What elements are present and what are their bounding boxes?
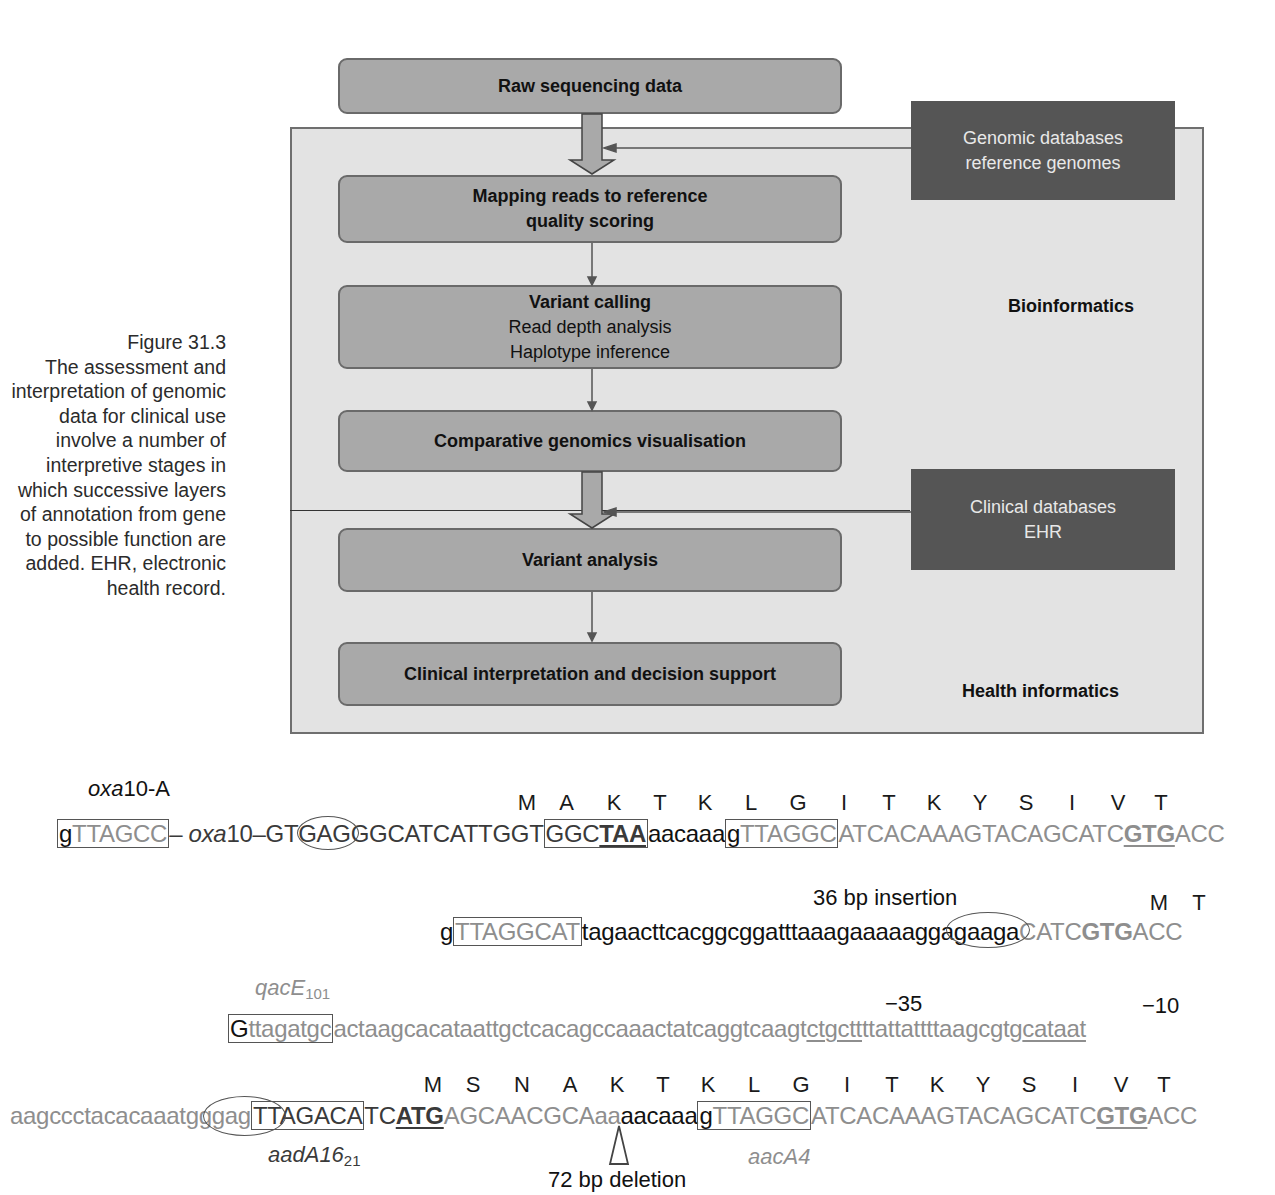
amino-acid: A: [546, 1072, 594, 1098]
amino-acid: I: [1052, 1072, 1098, 1098]
nt: TTAGGC: [713, 1102, 809, 1129]
nt: G: [230, 1015, 248, 1042]
nt: GGC: [546, 820, 600, 847]
subscript: 101: [305, 985, 330, 1002]
nt: ATCACAAAGTACAGCATC: [838, 820, 1123, 847]
att-box: gTTAGCC: [57, 819, 169, 848]
amino-acid: M: [1138, 890, 1180, 916]
nt: aacaaa: [621, 1102, 698, 1129]
amino-acid: V: [1098, 1072, 1144, 1098]
step-variant-analysis: Variant analysis: [338, 528, 842, 592]
nt: aagccctacacaaat: [10, 1102, 186, 1129]
att-box: TTAGGCAT: [453, 917, 582, 946]
start-codon: GTG: [1124, 820, 1175, 847]
amino-acid: T: [1144, 1072, 1184, 1098]
nt: ATCACAAAGTACAGCATC: [811, 1102, 1096, 1129]
amino-acid: T: [870, 1072, 914, 1098]
gene-name: oxa: [189, 820, 227, 847]
amino-acid: L: [730, 1072, 778, 1098]
step-title: Variant analysis: [522, 548, 658, 573]
amino-acid: K: [686, 1072, 730, 1098]
subscript: 21: [344, 1152, 361, 1169]
amino-acid: T: [637, 790, 683, 816]
aaca4-label: aacA4: [748, 1144, 810, 1170]
db-line: reference genomes: [965, 151, 1120, 176]
sequence-row-1: gTTAGCC– oxa10–GTGAGGGCATCATTGGTGGCTAAaa…: [57, 820, 1225, 848]
amino-acid: Y: [957, 790, 1003, 816]
db-line: EHR: [1024, 520, 1062, 545]
health-informatics-label: Health informatics: [962, 681, 1119, 702]
amino-acid: L: [727, 790, 775, 816]
figure-caption: Figure 31.3 The assessment and interpret…: [0, 330, 226, 601]
att-box: gTTAGGC: [725, 819, 838, 848]
oxa10a-label: oxa10-A: [88, 776, 170, 802]
amino-acid: I: [821, 790, 867, 816]
sequence-row-3: Gttagatgcactaagcacataattgctcacagccaaacta…: [228, 1015, 1086, 1043]
nt: ACC: [1133, 918, 1183, 945]
label-italic: oxa: [88, 776, 123, 801]
bio-health-divider: [290, 510, 910, 511]
minus35-box: ctgctt: [806, 1015, 862, 1042]
minus35-label: −35: [885, 991, 922, 1017]
aa-row-2: MT: [1138, 890, 1218, 916]
nt: g: [699, 1102, 712, 1129]
rbs-oval: [203, 1096, 286, 1136]
minus10-label: −10: [1142, 993, 1179, 1019]
amino-acid: M: [512, 790, 542, 816]
bioinformatics-label: Bioinformatics: [1008, 296, 1134, 317]
rbs-oval: [297, 816, 359, 850]
qace-label: qacE101: [255, 975, 330, 1002]
nt: TTAGGC: [740, 820, 836, 847]
nt: g: [440, 918, 453, 945]
caption-text: The assessment and interpretation of gen…: [11, 356, 226, 599]
nt: –: [169, 820, 188, 847]
amino-acid: M: [418, 1072, 448, 1098]
step-title: Variant calling: [529, 290, 651, 315]
amino-acid: T: [640, 1072, 686, 1098]
start-codon: GTG: [1096, 1102, 1147, 1129]
sequence-row-2: gTTAGGCATtagaacttcacggcggatttaaagaaaaagg…: [440, 918, 1182, 946]
aa-row-1: MAKTKLGITKYSIVT: [512, 790, 1181, 816]
step-title: Raw sequencing data: [498, 74, 682, 99]
nt: TTAGCC: [72, 820, 167, 847]
step-mapping-reads: Mapping reads to reference quality scori…: [338, 175, 842, 243]
step-title: Clinical interpretation and decision sup…: [404, 662, 776, 687]
amino-acid: K: [911, 790, 957, 816]
gene-name: qacE: [255, 975, 305, 1000]
insertion-seq: tagaacttcacggcggatttaaagaaaaa: [582, 918, 915, 945]
att-box: Gttagatgc: [228, 1014, 333, 1043]
step-raw-sequencing: Raw sequencing data: [338, 58, 842, 114]
step-subtitle: quality scoring: [526, 209, 654, 234]
step-clinical-interpretation: Clinical interpretation and decision sup…: [338, 642, 842, 706]
stop-codon: TAA: [599, 820, 646, 847]
nt: actaagcacataattgctcacagccaaactatcaggtcaa…: [333, 1015, 806, 1042]
nt: g: [59, 820, 72, 847]
nt: g: [727, 820, 740, 847]
step-comparative-genomics: Comparative genomics visualisation: [338, 410, 842, 472]
step-line: Haplotype inference: [510, 340, 670, 365]
step-title: Mapping reads to reference: [472, 184, 707, 209]
nt: AGCAACGCA: [444, 1102, 595, 1129]
rbs-oval: [946, 912, 1030, 948]
minus10-box: cataat: [1022, 1015, 1086, 1042]
nt: ACC: [1175, 820, 1225, 847]
amino-acid: I: [824, 1072, 870, 1098]
step-line: Read depth analysis: [508, 315, 671, 340]
start-codon: GTG: [1081, 918, 1132, 945]
amino-acid: N: [498, 1072, 546, 1098]
deletion-marker-icon: [606, 1124, 632, 1166]
aa-row-4: MSNAKTKLGITKYSIVT: [418, 1072, 1184, 1098]
amino-acid: K: [914, 1072, 960, 1098]
nt: GGCATCATTGGT: [351, 820, 544, 847]
amino-acid: K: [591, 790, 637, 816]
amino-acid: K: [683, 790, 727, 816]
amino-acid: S: [448, 1072, 498, 1098]
nt: TC: [364, 1102, 395, 1129]
att-box: gTTAGGC: [697, 1101, 810, 1130]
att-box: GGCTAA: [544, 819, 648, 848]
nt: ttattattttaagcgtg: [862, 1015, 1022, 1042]
aada16-label: aadA1621: [268, 1142, 361, 1169]
genomic-databases-box: Genomic databases reference genomes: [911, 101, 1175, 200]
gene-name: aadA16: [268, 1142, 344, 1167]
db-line: Genomic databases: [963, 126, 1123, 151]
